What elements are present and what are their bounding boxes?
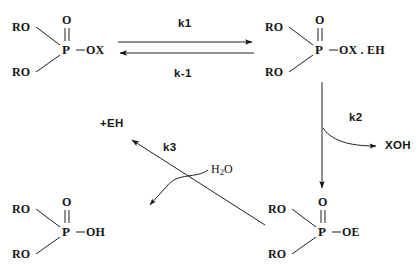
structure-phosphoric-acid-bonds xyxy=(36,209,85,254)
complex-substituent-label: OX . EH xyxy=(339,44,385,56)
phosphoric-acid-ro-top-label: RO xyxy=(12,203,30,215)
phosphorylated-enzyme-ro-top-label: RO xyxy=(268,203,286,215)
structure-complex-bonds xyxy=(289,27,338,72)
rate-constant-k-minus-1-label: k-1 xyxy=(174,68,192,80)
phosphoric-acid-phosphorus-label: P xyxy=(62,225,70,238)
species-water-label: H2O xyxy=(211,163,233,177)
phosphorylated-enzyme-oxo-label: O xyxy=(318,196,328,208)
phosphorylated-enzyme-ro-bottom-label: RO xyxy=(268,248,286,260)
complex-ro-bottom-label: RO xyxy=(265,66,283,78)
structure-phosphorylated-enzyme-bonds xyxy=(292,209,341,254)
reactant-oxo-label: O xyxy=(62,14,72,26)
reaction-scheme-diagram: RO RO O P OX RO RO O P OX . EH RO RO O P… xyxy=(0,0,419,279)
phosphoric-acid-oxo-label: O xyxy=(62,196,72,208)
rate-constant-k3-label: k3 xyxy=(163,142,177,154)
reactant-phosphorus-label: P xyxy=(62,43,70,56)
structure-reactant-bonds xyxy=(36,27,85,72)
species-leaving-group-xoh-label: XOH xyxy=(385,140,411,152)
reactant-substituent-label: OX xyxy=(86,44,104,56)
arrow-water-curved xyxy=(150,170,208,205)
arrow-k3-diagonal xyxy=(132,140,265,225)
rate-constant-k1-label: k1 xyxy=(178,18,192,30)
species-enzyme-released-label: +EH xyxy=(100,118,124,130)
reactant-ro-bottom-label: RO xyxy=(12,66,30,78)
phosphorylated-enzyme-phosphorus-label: P xyxy=(318,225,326,238)
rate-constant-k2-label: k2 xyxy=(349,112,363,124)
complex-ro-top-label: RO xyxy=(265,21,283,33)
complex-phosphorus-label: P xyxy=(315,43,323,56)
complex-oxo-label: O xyxy=(315,14,325,26)
water-h: H xyxy=(211,162,220,176)
arrow-k2-branch-to-xoh xyxy=(323,128,376,146)
phosphorylated-enzyme-substituent-label: OE xyxy=(342,226,360,238)
water-o: O xyxy=(224,162,233,176)
phosphoric-acid-ro-bottom-label: RO xyxy=(12,248,30,260)
phosphoric-acid-substituent-label: OH xyxy=(86,226,105,238)
reactant-ro-top-label: RO xyxy=(12,21,30,33)
